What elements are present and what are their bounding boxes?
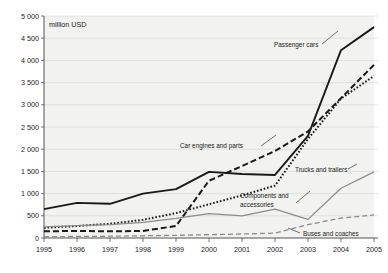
leader-line — [261, 135, 276, 146]
y-tick-label: 1 000 — [21, 189, 39, 198]
series-lines — [44, 27, 374, 237]
x-tick-label: 2005 — [366, 245, 382, 254]
x-tick-label: 1999 — [168, 245, 184, 254]
series-label-buses-and-coaches: Buses and coaches — [303, 230, 359, 237]
y-tick-labels: 05001 0001 5002 0002 5003 0003 5004 0004… — [21, 12, 39, 243]
x-tick-marks — [44, 238, 374, 242]
y-tick-label: 5 000 — [21, 12, 39, 21]
leader-line — [296, 191, 310, 203]
line-chart: 05001 0001 5002 0002 5003 0003 5004 0004… — [0, 0, 388, 273]
x-tick-label: 2000 — [201, 245, 217, 254]
y-tick-label: 2 500 — [21, 123, 39, 132]
y-tick-label: 4 000 — [21, 56, 39, 65]
x-tick-label: 1997 — [102, 245, 118, 254]
x-tick-label: 1996 — [69, 245, 85, 254]
y-tick-label: 3 000 — [21, 100, 39, 109]
x-tick-label: 1998 — [135, 245, 151, 254]
x-tick-label: 1995 — [36, 245, 52, 254]
x-tick-labels: 1995199619971998199920002001200220032004… — [36, 245, 382, 254]
y-tick-label: 3 500 — [21, 78, 39, 87]
x-tick-label: 2003 — [300, 245, 316, 254]
y-tick-label: 4 500 — [21, 34, 39, 43]
series-label-components-line2: accessories — [240, 201, 274, 208]
series-label-trucks-and-trailers: Trucks and trailers — [295, 166, 347, 173]
y-tick-label: 2 000 — [21, 145, 39, 154]
chart-figure: 05001 0001 5002 0002 5003 0003 5004 0004… — [0, 0, 388, 273]
leader-line — [348, 164, 357, 169]
series-label-components-line1: Components and — [240, 192, 289, 200]
series-label-car-engines-and-parts: Car engines and parts — [180, 142, 243, 150]
series-line-trucks-and-trailers — [44, 172, 374, 227]
series-label-passenger-cars: Passenger cars — [274, 41, 318, 49]
series-line-components-and-accessories — [44, 76, 374, 228]
y-tick-label: 0 — [35, 234, 39, 243]
unit-label: million USD — [49, 20, 87, 29]
x-tick-label: 2002 — [267, 245, 283, 254]
y-tick-label: 500 — [27, 211, 39, 220]
y-tick-label: 1 500 — [21, 167, 39, 176]
x-tick-label: 2001 — [234, 245, 250, 254]
x-tick-label: 2004 — [333, 245, 349, 254]
leader-line — [322, 31, 338, 44]
